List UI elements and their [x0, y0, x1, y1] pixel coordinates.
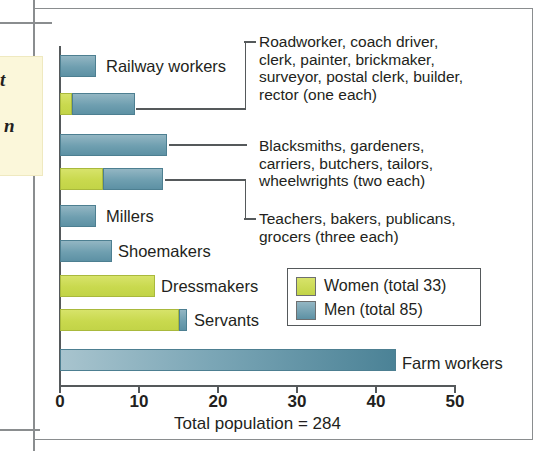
legend: Women (total 33) Men (total 85)	[287, 268, 481, 326]
bar-row-one-each	[60, 93, 135, 115]
bar-label-millers: Millers	[106, 207, 154, 226]
x-tick-label-20: 20	[198, 392, 238, 412]
bar-segment-men	[72, 93, 135, 115]
legend-item-men: Men (total 85)	[296, 299, 423, 321]
bar-row-three-each	[60, 168, 163, 190]
bar-segment-men	[60, 349, 396, 371]
bar-label-farm: Farm workers	[402, 354, 503, 373]
bar-label-servants: Servants	[194, 311, 259, 330]
bar-segment-men	[60, 205, 96, 227]
bar-segment-women	[60, 168, 103, 190]
legend-swatch-women-icon	[296, 277, 316, 296]
x-axis-line	[59, 385, 456, 387]
bar-segment-men	[60, 134, 167, 156]
bar-row-railway	[60, 55, 96, 77]
leader-line-one-each-tip	[244, 41, 256, 43]
x-tick-label-30: 30	[277, 392, 317, 412]
x-tick-label-50: 50	[435, 392, 475, 412]
x-tick-label-0: 0	[40, 392, 80, 412]
bar-segment-men	[103, 168, 163, 190]
bar-label-railway: Railway workers	[106, 57, 226, 76]
annotation-two-each: Blacksmiths, gardeners, carriers, butche…	[259, 137, 433, 190]
bar-segment-men	[179, 309, 187, 331]
legend-label-men: Men (total 85)	[324, 301, 423, 319]
bar-row-farm	[60, 349, 396, 371]
bar-row-two-each-men	[60, 134, 167, 156]
bar-segment-men	[60, 240, 112, 262]
bar-row-millers	[60, 205, 96, 227]
leader-line-two-each	[169, 144, 247, 146]
bar-row-dressmakers	[60, 275, 155, 297]
bar-label-shoemakers: Shoemakers	[118, 242, 211, 261]
leader-line-one-each-horizontal	[136, 108, 246, 110]
bar-row-shoemakers	[60, 240, 112, 262]
legend-swatch-men-icon	[296, 301, 316, 320]
total-population-caption: Total population = 284	[59, 414, 456, 434]
annotation-three-each: Teachers, bakers, publicans, grocers (th…	[259, 210, 455, 245]
legend-label-women: Women (total 33)	[324, 277, 446, 295]
leader-line-three-each-horizontal	[165, 179, 245, 181]
leader-line-three-each-tip	[244, 218, 256, 220]
bar-segment-men	[60, 55, 96, 77]
bar-row-servants	[60, 309, 187, 331]
leader-line-one-each-vertical	[245, 41, 247, 109]
bar-segment-women	[60, 309, 179, 331]
bar-segment-women	[60, 275, 155, 297]
x-tick-label-40: 40	[356, 392, 396, 412]
bar-segment-women	[60, 93, 72, 115]
x-tick-label-10: 10	[119, 392, 159, 412]
bar-label-dressmakers: Dressmakers	[161, 277, 258, 296]
leader-line-three-each-vertical	[245, 179, 247, 219]
legend-item-women: Women (total 33)	[296, 275, 446, 297]
annotation-one-each: Roadworker, coach driver, clerk, painter…	[259, 33, 463, 103]
bar-chart: 0 10 20 30 40 50 Railway workers Millers…	[0, 0, 541, 451]
